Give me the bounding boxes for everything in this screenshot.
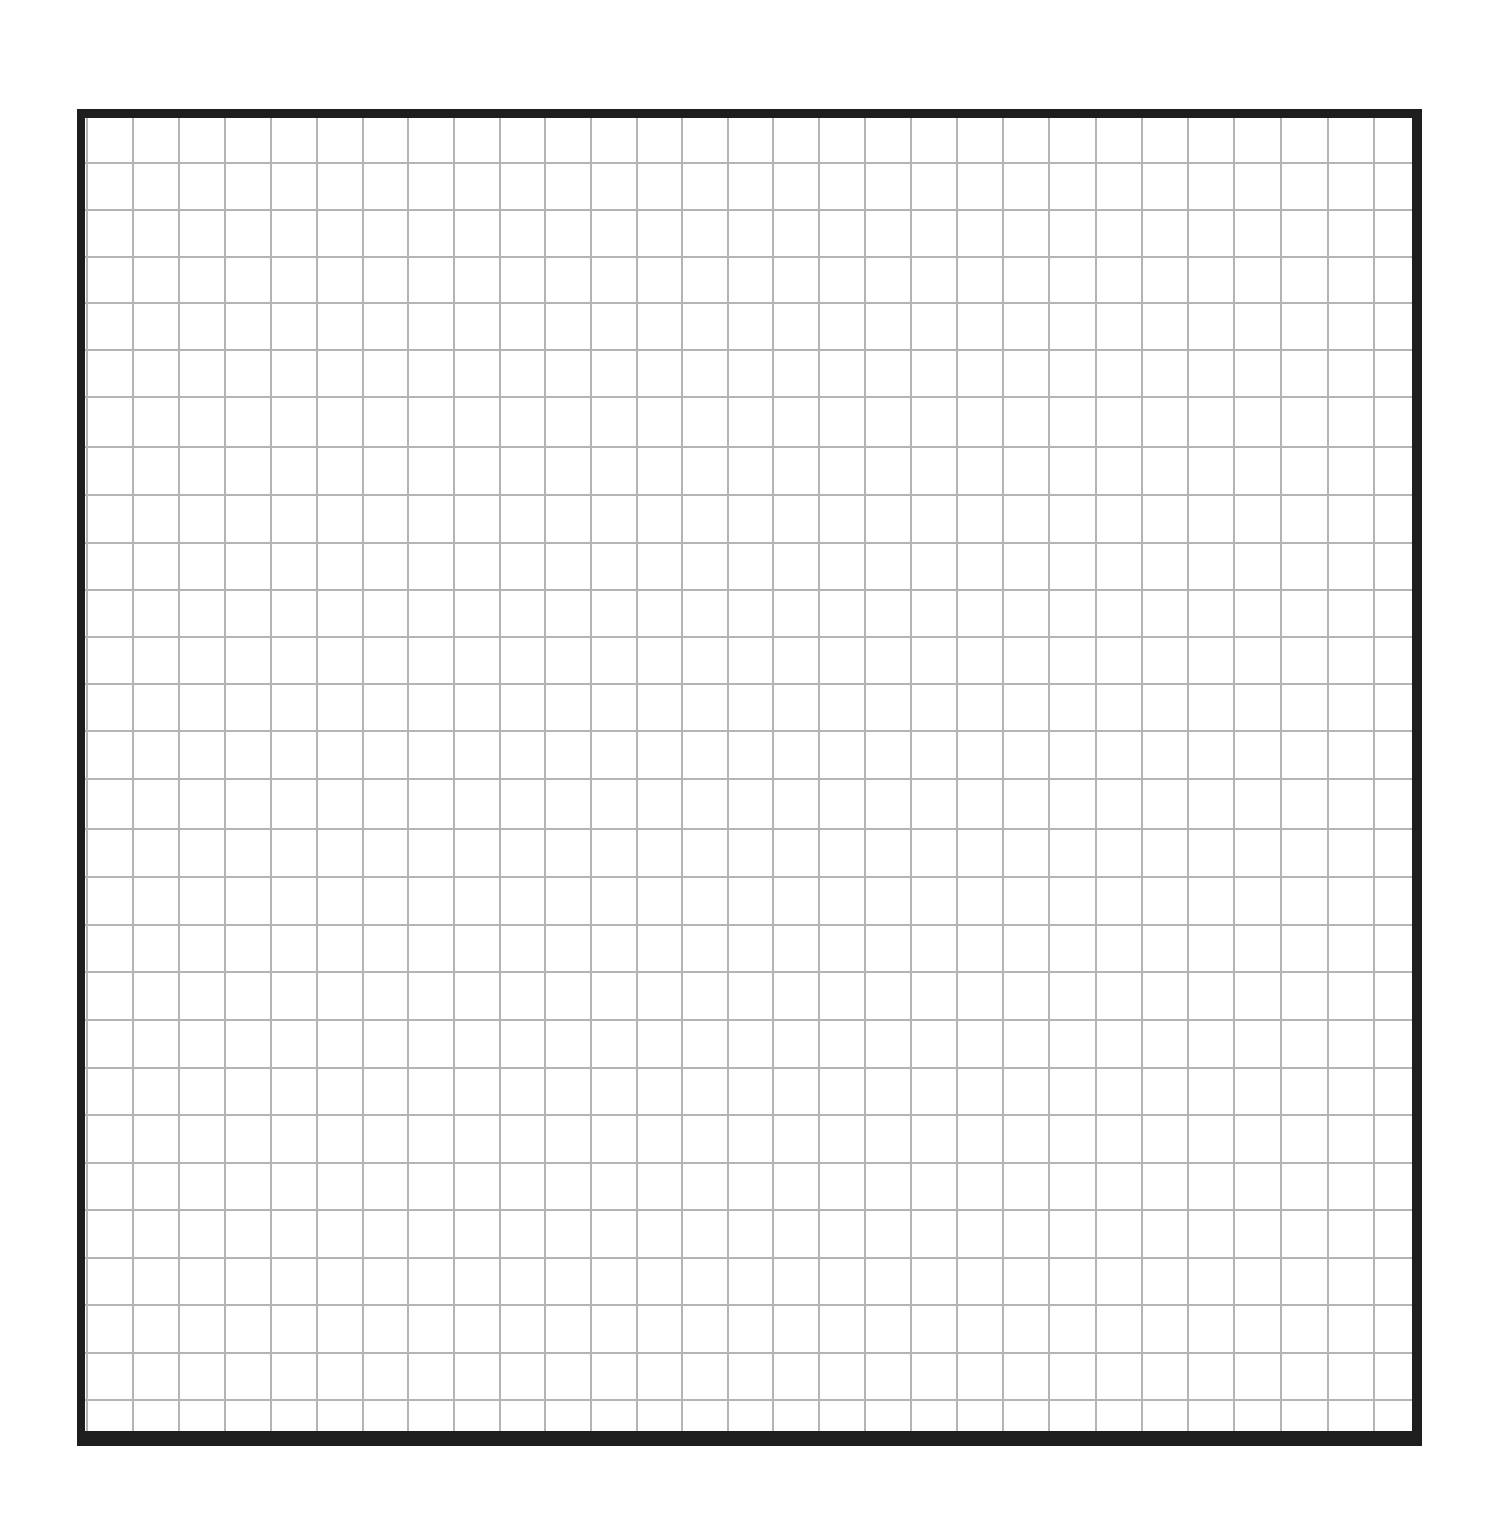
grid-vertical-line — [1141, 118, 1143, 1431]
grid-horizontal-line — [85, 636, 1412, 638]
grid-vertical-line — [727, 118, 729, 1431]
grid-horizontal-line — [85, 1257, 1412, 1259]
grid-horizontal-line — [85, 1019, 1412, 1021]
grid-vertical-line — [1187, 118, 1189, 1431]
grid-vertical-line — [544, 118, 546, 1431]
grid-vertical-line — [499, 118, 501, 1431]
grid-vertical-line — [132, 118, 134, 1431]
grid-horizontal-line — [85, 589, 1412, 591]
grid-horizontal-line — [85, 876, 1412, 878]
grid-vertical-line — [956, 118, 958, 1431]
grid-vertical-line — [1327, 118, 1329, 1431]
grid-vertical-line — [453, 118, 455, 1431]
grid-vertical-line — [86, 118, 88, 1431]
grid-horizontal-line — [85, 256, 1412, 258]
grid-horizontal-line — [85, 778, 1412, 780]
grid-vertical-line — [316, 118, 318, 1431]
grid-vertical-line — [1280, 118, 1282, 1431]
grid-vertical-line — [362, 118, 364, 1431]
grid-vertical-line — [681, 118, 683, 1431]
grid-horizontal-line — [85, 349, 1412, 351]
grid-vertical-line — [910, 118, 912, 1431]
grid-horizontal-line — [85, 396, 1412, 398]
grid-vertical-line — [224, 118, 226, 1431]
grid-horizontal-line — [85, 1399, 1412, 1401]
grid-horizontal-line — [85, 730, 1412, 732]
grid-horizontal-line — [85, 209, 1412, 211]
grid-horizontal-line — [85, 683, 1412, 685]
grid-horizontal-line — [85, 1209, 1412, 1211]
grid-vertical-line — [1373, 118, 1375, 1431]
grid-vertical-line — [818, 118, 820, 1431]
grid-horizontal-line — [85, 302, 1412, 304]
grid-horizontal-line — [85, 542, 1412, 544]
grid-vertical-line — [178, 118, 180, 1431]
grid-vertical-line — [1095, 118, 1097, 1431]
grid-vertical-line — [270, 118, 272, 1431]
grid-horizontal-line — [85, 162, 1412, 164]
grid-vertical-line — [590, 118, 592, 1431]
grid-vertical-line — [1233, 118, 1235, 1431]
graph-paper-frame — [77, 109, 1422, 1446]
grid-vertical-line — [1002, 118, 1004, 1431]
grid-vertical-line — [864, 118, 866, 1431]
grid-horizontal-line — [85, 924, 1412, 926]
grid-horizontal-line — [85, 828, 1412, 830]
grid-vertical-line — [407, 118, 409, 1431]
grid-horizontal-line — [85, 1352, 1412, 1354]
grid-horizontal-line — [85, 494, 1412, 496]
grid-vertical-line — [772, 118, 774, 1431]
grid-vertical-line — [636, 118, 638, 1431]
grid-horizontal-line — [85, 1114, 1412, 1116]
grid-vertical-line — [1048, 118, 1050, 1431]
grid-lines — [85, 118, 1412, 1431]
grid-horizontal-line — [85, 1067, 1412, 1069]
grid-horizontal-line — [85, 971, 1412, 973]
grid-horizontal-line — [85, 446, 1412, 448]
grid-horizontal-line — [85, 1162, 1412, 1164]
grid-horizontal-line — [85, 1304, 1412, 1306]
